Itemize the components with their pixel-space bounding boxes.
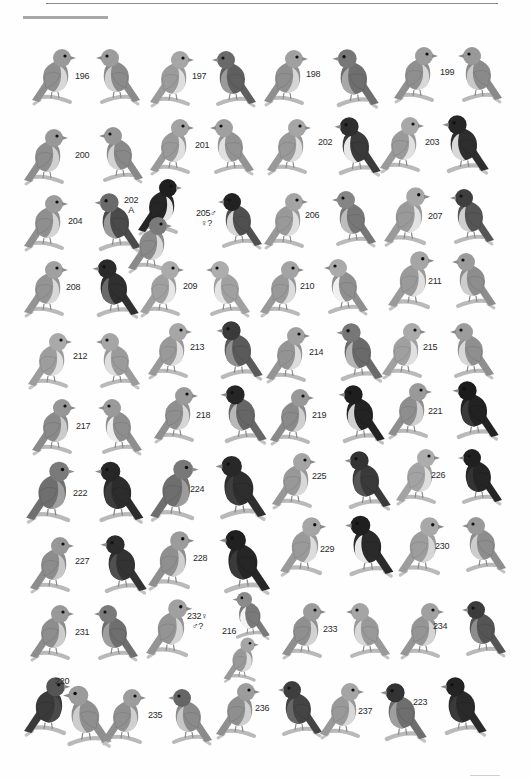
bird-illustration — [328, 378, 387, 445]
bird-illustration — [265, 112, 321, 176]
bird-illustration — [452, 510, 508, 574]
top-rule-line — [46, 3, 498, 4]
species-number-label: 233 — [323, 624, 337, 634]
species-number-label: 211 — [428, 276, 441, 286]
species-number-label: 221 — [428, 406, 442, 416]
bird-illustration — [22, 122, 78, 186]
species-number-label: 231 — [75, 627, 89, 637]
species-number-label: 202 — [318, 137, 332, 147]
species-number-label: 220 — [55, 676, 69, 686]
species-number-label: 202 A — [124, 195, 138, 215]
bird-illustration — [90, 528, 149, 595]
scan-artifact — [470, 775, 500, 776]
species-number-label: 216 — [222, 626, 236, 636]
bird-illustration — [208, 522, 272, 596]
species-number-label: 204 — [68, 216, 82, 226]
species-number-label: 228 — [193, 553, 207, 563]
species-number-label: 208 — [66, 282, 80, 292]
species-number-label: 234 — [433, 621, 447, 631]
bird-illustration — [206, 314, 265, 381]
species-number-label: 237 — [358, 706, 372, 716]
species-number-label: 199 — [440, 67, 454, 77]
bird-illustration — [86, 326, 142, 390]
species-number-label: 215 — [423, 342, 437, 352]
bird-illustration — [84, 598, 140, 662]
species-number-label: 209 — [183, 281, 197, 291]
species-number-label: 230 — [435, 541, 449, 551]
species-number-label: 218 — [196, 410, 210, 420]
bird-illustration — [204, 448, 268, 522]
bird-illustration — [334, 444, 393, 511]
bird-illustration — [442, 246, 498, 310]
bird-illustration — [448, 40, 504, 104]
bird-illustration — [432, 108, 491, 175]
species-number-label: 217 — [76, 421, 90, 431]
species-number-label: 222 — [73, 488, 87, 498]
species-number-label: 206 — [305, 210, 319, 220]
species-number-label: 226 — [431, 470, 445, 480]
bird-illustration — [326, 316, 385, 383]
species-number-label: 227 — [75, 556, 89, 566]
bird-illustration — [210, 378, 269, 445]
species-number-label: 223 — [413, 697, 427, 707]
bird-illustration — [196, 254, 252, 318]
species-number-label: 235 — [148, 710, 162, 720]
header-bar — [23, 16, 108, 19]
species-number-label: 219 — [312, 410, 326, 420]
bird-illustration — [370, 676, 429, 743]
bird-illustration — [158, 682, 214, 746]
species-number-label: 201 — [195, 140, 209, 150]
bird-illustration — [452, 594, 508, 658]
bird-illustration — [440, 316, 496, 380]
species-number-label: 205♂ ♀? — [196, 208, 217, 228]
species-number-label: 198 — [306, 69, 320, 79]
bird-illustration — [202, 44, 258, 108]
species-number-label: 196 — [75, 71, 89, 81]
species-number-label: 207 — [428, 211, 442, 221]
bird-illustration — [88, 392, 144, 456]
species-number-label: 224 — [190, 484, 204, 494]
bird-illustration — [268, 674, 324, 738]
bird-illustration — [430, 670, 489, 737]
species-number-label: 214 — [309, 347, 323, 357]
bird-illustration — [442, 374, 501, 441]
species-number-label: 213 — [190, 342, 204, 352]
bird-illustration — [322, 184, 378, 248]
species-number-label: 229 — [320, 544, 334, 554]
bird-illustration — [84, 454, 146, 524]
bird-illustration — [82, 252, 141, 319]
species-number-label: 232♀ ♂? — [187, 611, 208, 631]
species-number-label: 197 — [192, 71, 206, 81]
bird-illustration — [440, 182, 496, 246]
bird-illustration — [314, 252, 370, 316]
species-number-label: 200 — [75, 150, 89, 160]
species-number-label: 203 — [425, 137, 439, 147]
species-number-label: 236 — [255, 703, 269, 713]
species-number-label: 225 — [312, 471, 326, 481]
bird-illustration — [324, 110, 383, 177]
bird-illustration — [448, 442, 504, 506]
bird-plate: 196197198199200201202203204202 A205♂ ♀?2… — [0, 0, 531, 778]
species-number-label: 210 — [300, 281, 314, 291]
bird-illustration — [86, 42, 142, 106]
bird-illustration — [334, 508, 396, 578]
species-number-label: 212 — [73, 351, 87, 361]
bird-illustration — [336, 596, 392, 660]
bird-illustration — [322, 42, 381, 109]
